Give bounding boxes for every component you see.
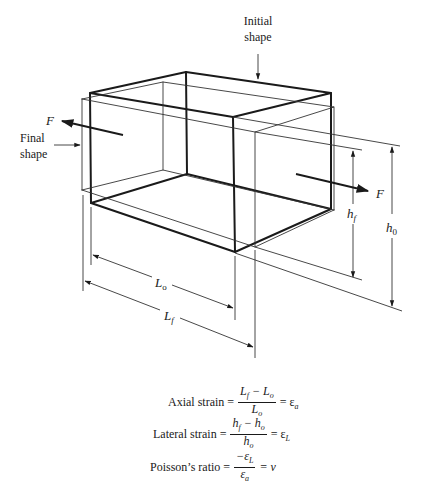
poissons-ratio-label: Poisson’s ratio = bbox=[150, 460, 230, 475]
deformation-diagram: hf h0 Lo Lf F F Initial shape F bbox=[0, 0, 425, 380]
hf-dimension: hf bbox=[347, 151, 358, 277]
initial-shape-callout: Initial shape bbox=[244, 14, 273, 79]
final-shape-callout: Final shape bbox=[20, 131, 80, 161]
axial-strain-label: Axial strain = bbox=[168, 395, 234, 410]
poissons-ratio-fraction: −εL εa bbox=[234, 450, 255, 486]
lf-label: Lf bbox=[163, 308, 175, 325]
lateral-strain-equation: Lateral strain = hf − ho ho = εL bbox=[153, 417, 290, 453]
lf-arrow-left bbox=[85, 281, 160, 310]
force-right: F bbox=[296, 174, 385, 201]
lo-dimension: Lo bbox=[93, 255, 233, 308]
poissons-ratio-equation: Poisson’s ratio = −εL εa = ν bbox=[150, 450, 276, 486]
force-right-label: F bbox=[375, 186, 385, 201]
final-shape-label-line2: shape bbox=[20, 147, 47, 161]
h0-label: h0 bbox=[386, 220, 398, 237]
lo-label: Lo bbox=[154, 275, 167, 292]
lf-dimension: Lf bbox=[85, 281, 253, 347]
lateral-strain-fraction: hf − ho ho bbox=[230, 417, 266, 453]
axial-strain-result: = εa bbox=[280, 395, 299, 411]
h0-dimension: h0 bbox=[386, 147, 398, 306]
lateral-strain-label: Lateral strain = bbox=[153, 427, 226, 442]
poissons-ratio-result: = ν bbox=[259, 460, 275, 475]
lateral-strain-result: = εL bbox=[271, 427, 290, 443]
initial-shape-label-line2: shape bbox=[244, 30, 271, 44]
final-shape-label-line1: Final bbox=[20, 131, 45, 145]
final-shape-box bbox=[82, 82, 334, 247]
force-left: F bbox=[45, 113, 123, 135]
length-extension-lines bbox=[83, 195, 255, 358]
initial-shape-box bbox=[90, 72, 331, 252]
hf-label: hf bbox=[347, 206, 358, 223]
lo-arrow-left bbox=[93, 255, 152, 277]
lo-arrow-right bbox=[172, 285, 233, 308]
force-left-arrow bbox=[62, 121, 123, 135]
lf-arrow-right bbox=[180, 318, 253, 347]
initial-shape-label-line1: Initial bbox=[244, 14, 273, 28]
force-left-label: F bbox=[45, 113, 55, 128]
